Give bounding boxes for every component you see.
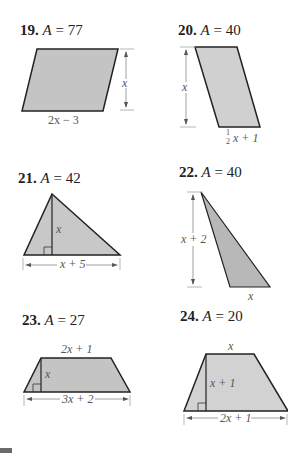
page-edge-mark (0, 448, 12, 453)
base-label: 2x + 1 (220, 411, 251, 426)
trapezoid-figure-24 (0, 0, 288, 455)
top-label: x (228, 339, 233, 354)
height-label: x + 1 (210, 376, 235, 391)
